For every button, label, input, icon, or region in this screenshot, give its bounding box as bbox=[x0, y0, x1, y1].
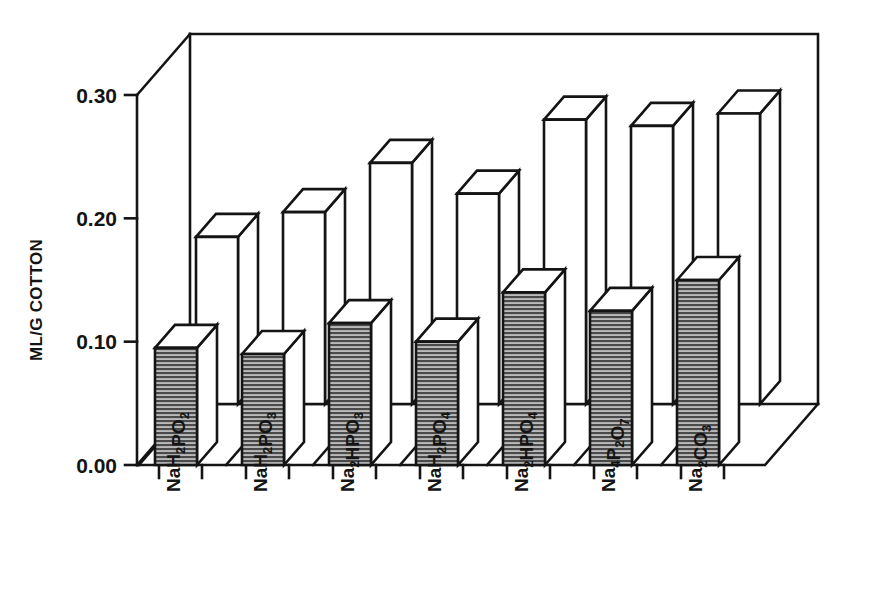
y-axis-title: ML/G COTTONNaH2PO2NaH2PO3Na2HPO3NaH2PO4N… bbox=[27, 91, 780, 493]
y-tick-label: 0.10 bbox=[76, 330, 117, 353]
bar-side-face bbox=[545, 269, 565, 465]
y-axis-title-text: ML/G COTTON bbox=[27, 239, 46, 361]
bar-side-face bbox=[458, 319, 478, 465]
bar-chart-figure: 0.000.100.200.30ML/G COTTONNaH2PO2NaH2PO… bbox=[0, 0, 875, 604]
x-axis-label: Na2CO3 bbox=[685, 425, 714, 492]
chart-canvas: 0.000.100.200.30ML/G COTTONNaH2PO2NaH2PO… bbox=[0, 0, 875, 604]
bar-side-face bbox=[760, 91, 780, 405]
x-axis-label: Na2HPO4 bbox=[511, 411, 540, 492]
bar-side-face bbox=[719, 257, 739, 465]
chart-frame: 0.000.100.200.30ML/G COTTONNaH2PO2NaH2PO… bbox=[27, 34, 818, 492]
x-axis-ticks: NaH2PO2NaH2PO3Na2HPO3NaH2PO4Na2HPO4Na4P2… bbox=[139, 91, 780, 493]
axis-top-depth-line bbox=[137, 34, 190, 95]
bar-side-face bbox=[371, 300, 391, 465]
x-axis-label-text: Na2HPO4 bbox=[511, 411, 540, 492]
x-axis-label-text: Na2HPO3 bbox=[337, 412, 366, 492]
x-axis-label: Na2HPO3 bbox=[337, 412, 366, 492]
floor-depth-lines: NaH2PO2NaH2PO3Na2HPO3NaH2PO4Na2HPO4Na4P2… bbox=[139, 91, 780, 493]
bar-side-face bbox=[632, 288, 652, 465]
bars-back-row-group: NaH2PO2NaH2PO3Na2HPO3NaH2PO4Na2HPO4Na4P2… bbox=[155, 91, 780, 493]
y-tick-label: 0.00 bbox=[76, 454, 117, 477]
y-tick-label: 0.30 bbox=[76, 84, 117, 107]
x-axis-label-text: Na2CO3 bbox=[685, 425, 714, 492]
y-tick-label: 0.20 bbox=[76, 207, 117, 230]
y-axis-ticks: 0.000.100.200.30ML/G COTTONNaH2PO2NaH2PO… bbox=[27, 84, 780, 493]
